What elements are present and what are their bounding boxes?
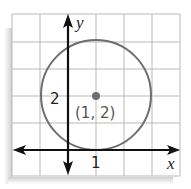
center-point (92, 92, 100, 100)
x-axis-label: x (166, 154, 175, 173)
shadow-bottom (8, 177, 173, 184)
coordinate-graph: y x 2 1 (1, 2) (0, 0, 191, 189)
center-point-label: (1, 2) (75, 104, 115, 122)
y-tick-label: 2 (50, 90, 60, 108)
graph-canvas: y x 2 1 (1, 2) (0, 0, 191, 189)
shadow-left (4, 28, 12, 184)
x-tick-label: 1 (91, 154, 101, 172)
y-axis-label: y (74, 13, 84, 32)
